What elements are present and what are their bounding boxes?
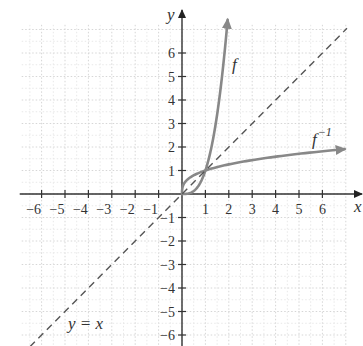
f-inverse-curve-label: f−1 <box>312 125 332 149</box>
f-curve-label: f <box>232 55 239 74</box>
y-tick-label: 2 <box>168 140 175 155</box>
x-tick-label: −6 <box>26 202 41 217</box>
y-tick-label: −2 <box>160 234 175 249</box>
y-tick-label: 3 <box>168 117 175 132</box>
y-tick-label: 1 <box>168 164 175 179</box>
x-tick-label: −4 <box>73 202 88 217</box>
x-tick-label: 3 <box>249 202 256 217</box>
y-tick-label: 4 <box>168 93 175 108</box>
y-tick-label: 6 <box>168 46 175 61</box>
f-inverse-superscript: −1 <box>318 125 332 139</box>
x-tick-label: 1 <box>202 202 209 217</box>
x-tick-label: −5 <box>50 202 65 217</box>
x-tick-label: −2 <box>120 202 135 217</box>
x-tick-label: 6 <box>319 202 326 217</box>
y-tick-label: 5 <box>168 70 175 85</box>
f-curve <box>182 20 228 194</box>
y-tick-label: −5 <box>160 305 175 320</box>
identity-line-label: y = x <box>66 314 104 333</box>
x-axis-title: x <box>353 197 362 216</box>
x-tick-label: −1 <box>143 202 158 217</box>
y-tick-label: −6 <box>160 328 175 343</box>
y-axis-title: y <box>165 5 175 24</box>
x-tick-label: 2 <box>225 202 232 217</box>
y-tick-label: −4 <box>160 281 175 296</box>
x-tick-label: 4 <box>272 202 279 217</box>
x-tick-label: −3 <box>96 202 111 217</box>
y-tick-label: −3 <box>160 258 175 273</box>
y-tick-label: −1 <box>160 211 175 226</box>
x-tick-label: 5 <box>296 202 303 217</box>
function-inverse-chart: −6−5−4−3−2−1123456−6−5−4−3−2−1123456 y x… <box>0 0 363 346</box>
